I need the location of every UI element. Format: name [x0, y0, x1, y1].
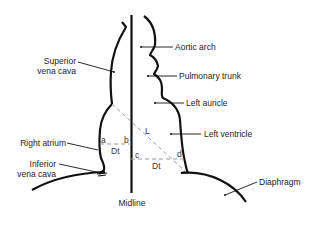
label-right-atrium: Right atrium	[6, 138, 66, 148]
leader-right-atrium	[67, 143, 98, 150]
leader-diaphragm-dot	[224, 194, 226, 196]
leader-pulmonary-trunk-dot	[147, 75, 149, 77]
label-midline: Midline	[112, 198, 152, 208]
leader-svc	[78, 62, 114, 72]
label-superior-vena-cava-line2: vena cava	[30, 66, 76, 76]
leader-aortic-arch-dot	[140, 46, 142, 48]
leader-ivc	[59, 164, 101, 173]
label-diaphragm: Diaphragm	[259, 177, 301, 187]
dt-left-label: Dt	[152, 161, 161, 171]
point-d: d	[177, 149, 182, 159]
leader-left-auricle-dot	[154, 102, 156, 104]
diaphragm-left-dome	[181, 173, 246, 202]
label-pulmonary-trunk: Pulmonary trunk	[179, 71, 241, 81]
label-left-ventricle: Left ventricle	[204, 129, 252, 139]
point-L: L	[145, 126, 150, 136]
leader-left-ventricle-dot	[170, 133, 172, 135]
leader-svc-dot	[113, 71, 115, 73]
leader-diaphragm	[225, 182, 257, 195]
label-aortic-arch: Aortic arch	[175, 42, 216, 52]
point-b: b	[124, 135, 129, 145]
diaphragm-base-tick	[181, 172, 187, 173]
point-c: c	[135, 150, 139, 160]
point-a: a	[101, 135, 106, 145]
label-inferior-vena-cava-line2: vena cava	[10, 169, 56, 179]
label-superior-vena-cava-line1: Superior	[40, 56, 76, 66]
ivc-mark	[97, 173, 107, 176]
label-inferior-vena-cava-line1: Inferior	[20, 159, 56, 169]
dt-right-label: Dt	[111, 146, 120, 156]
label-left-auricle: Left auricle	[186, 98, 228, 108]
